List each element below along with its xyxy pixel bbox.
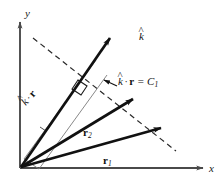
equals-sign: = [137, 75, 144, 87]
vector-r2 [21, 99, 133, 167]
r1-subscript: 1 [108, 159, 112, 168]
plane-dashed-line [33, 38, 176, 151]
plane-equation-leader-line [104, 80, 117, 86]
hat-accent-icon: ˄ [117, 70, 123, 80]
r2-label: r2 [83, 123, 92, 140]
constant-subscript: 1 [154, 80, 158, 89]
k-hat-label: ˄k [139, 27, 144, 43]
x-axis-label: x [209, 163, 214, 174]
vector-plane-figure: y x ˄k ˄k·r = C1 ˄k·r r2 r1 [0, 0, 221, 184]
r-vector-letter: r [129, 75, 134, 87]
plane-equation-label: ˄k·r = C1 [118, 76, 158, 89]
k-hat-glyph: ˄k [118, 76, 123, 87]
r1-label: r1 [103, 151, 112, 168]
r2-subscript: 2 [88, 131, 92, 140]
vector-k-hat [21, 38, 110, 167]
hat-accent-icon: ˄ [138, 25, 144, 35]
k-hat-glyph: ˄k [139, 31, 144, 42]
projection-construction-lines [24, 60, 107, 169]
y-axis-label: y [25, 8, 30, 19]
